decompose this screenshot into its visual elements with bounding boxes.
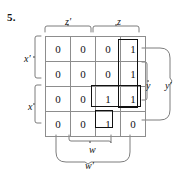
kmap-cell[interactable]: 1: [121, 87, 146, 112]
kmap-row: 0 0 1 0: [46, 112, 146, 137]
kmap-cell[interactable]: 0: [46, 62, 71, 87]
kmap-cell[interactable]: 0: [46, 112, 71, 137]
kmap-row: 0 0 1 1: [46, 87, 146, 112]
kmap-figure: 5. z′ z x′ x y y′ w w′ 0 0: [0, 0, 184, 178]
axis-label-z-prime: z′: [65, 16, 71, 27]
bracket-x-prime: [33, 36, 41, 78]
kmap-cell[interactable]: 0: [121, 112, 146, 137]
kmap-cell[interactable]: 1: [96, 112, 121, 137]
axis-label-x: x: [28, 101, 32, 112]
kmap-cell[interactable]: 0: [71, 62, 96, 87]
axis-label-y: y: [146, 80, 150, 91]
kmap-cell[interactable]: 0: [46, 37, 71, 62]
axis-label-x-prime: x′: [24, 53, 31, 64]
kmap-cell[interactable]: 0: [71, 112, 96, 137]
kmap-grid: 0 0 0 1 0 0 0 1 0 0 1 1 0: [45, 36, 146, 137]
kmap-cell[interactable]: 1: [121, 37, 146, 62]
axis-label-w: w: [89, 144, 96, 155]
kmap-cell[interactable]: 0: [71, 37, 96, 62]
axis-label-y-prime: y′: [165, 80, 172, 91]
bracket-z: [93, 24, 139, 32]
kmap-row: 0 0 0 1: [46, 62, 146, 87]
kmap-cell[interactable]: 0: [71, 87, 96, 112]
kmap-cell[interactable]: 1: [121, 62, 146, 87]
problem-number: 5.: [7, 11, 16, 23]
axis-label-w-prime: w′: [85, 160, 94, 171]
axis-label-z: z: [117, 16, 121, 27]
kmap-grid-wrap: 0 0 0 1 0 0 0 1 0 0 1 1 0: [45, 36, 141, 132]
kmap-cell[interactable]: 0: [96, 37, 121, 62]
kmap-cell[interactable]: 0: [46, 87, 71, 112]
bracket-x: [33, 85, 41, 123]
kmap-cell[interactable]: 1: [96, 87, 121, 112]
kmap-row: 0 0 0 1: [46, 37, 146, 62]
kmap-cell[interactable]: 0: [96, 62, 121, 87]
